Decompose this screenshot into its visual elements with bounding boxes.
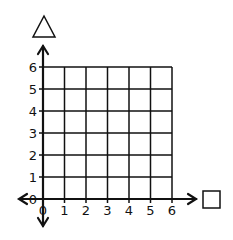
x-label-6: 6: [168, 203, 176, 218]
grid-lines: [43, 67, 172, 199]
x-label-0: 0: [39, 203, 47, 218]
x-label-1: 1: [60, 203, 68, 218]
x-label-3: 3: [103, 203, 111, 218]
y-label-4: 4: [29, 104, 37, 119]
x-label-4: 4: [125, 203, 133, 218]
y-label-5: 5: [29, 82, 37, 97]
y-label-1: 1: [29, 170, 37, 185]
y-label-6: 6: [29, 60, 37, 75]
y-label-0: 0: [29, 192, 37, 207]
y-label-2: 2: [29, 148, 37, 163]
triangle-icon: [33, 16, 55, 37]
x-label-2: 2: [82, 203, 90, 218]
coordinate-grid: 0 1 2 3 4 5 6 0 1 2 3 4 5 6: [0, 0, 233, 240]
tick-marks: [39, 67, 172, 203]
y-label-3: 3: [29, 126, 37, 141]
square-icon: [203, 191, 220, 208]
x-tick-labels: 0 1 2 3 4 5 6: [39, 203, 176, 218]
x-label-5: 5: [146, 203, 154, 218]
y-tick-labels: 0 1 2 3 4 5 6: [29, 60, 37, 207]
